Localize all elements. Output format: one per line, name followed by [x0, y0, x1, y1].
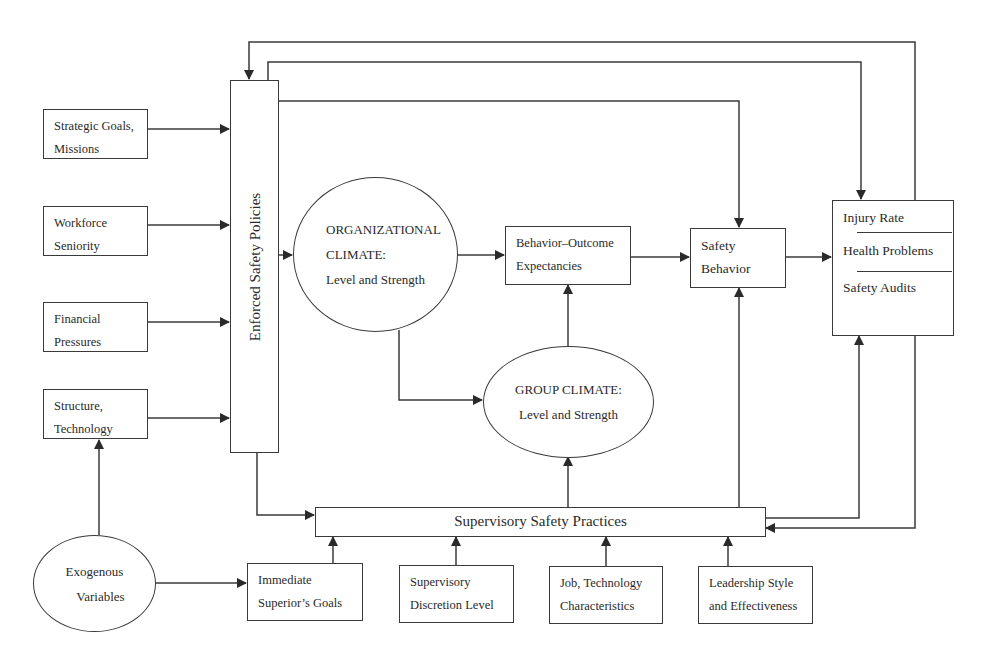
enforced-safety-policies-label: Enforced Safety Policies [246, 192, 263, 340]
exogenous-line2: Variables [64, 584, 124, 609]
supervisory-safety-practices-label: Supervisory Safety Practices [454, 513, 626, 529]
safety-behavior-box: Safety Behavior [690, 228, 786, 288]
supervisory-discretion-line1: Supervisory [410, 571, 513, 594]
strategic-goals-line1: Strategic Goals, [54, 115, 147, 138]
workforce-seniority-line1: Workforce [54, 212, 147, 235]
strategic-goals-box: Strategic Goals, Missions [43, 109, 148, 159]
immediate-superior-line2: Superior’s Goals [258, 592, 362, 615]
supervisory-discretion-box: Supervisory Discretion Level [399, 565, 514, 623]
financial-pressures-line1: Financial [54, 308, 147, 331]
job-technology-box: Job, Technology Characteristics [549, 566, 663, 624]
financial-pressures-line2: Pressures [54, 331, 147, 354]
structure-technology-line1: Structure, [54, 395, 147, 418]
safety-behavior-line2: Behavior [701, 257, 785, 280]
outcomes-divider-1 [857, 232, 952, 233]
safety-behavior-line1: Safety [701, 234, 785, 257]
job-technology-line2: Characteristics [560, 595, 662, 618]
immediate-superior-line1: Immediate [258, 569, 362, 592]
workforce-seniority-box: Workforce Seniority [43, 206, 148, 256]
group-climate-line1: GROUP CLIMATE: [515, 377, 622, 402]
workforce-seniority-line2: Seniority [54, 235, 147, 258]
structure-technology-line2: Technology [54, 418, 147, 441]
exogenous-line1: Exogenous [66, 559, 124, 584]
immediate-superior-goals-box: Immediate Superior’s Goals [247, 563, 363, 621]
supervisory-safety-practices-bar: Supervisory Safety Practices [315, 507, 766, 537]
job-technology-line1: Job, Technology [560, 572, 662, 595]
outcomes-box: Injury Rate Health Problems Safety Audit… [832, 200, 954, 336]
leadership-style-box: Leadership Style and Effectiveness [698, 566, 813, 624]
strategic-goals-line2: Missions [54, 138, 147, 161]
leadership-style-line1: Leadership Style [709, 572, 812, 595]
exogenous-variables-ellipse: Exogenous Variables [33, 535, 156, 632]
group-climate-ellipse: GROUP CLIMATE: Level and Strength [483, 346, 654, 458]
behavior-outcome-line1: Behavior–Outcome [516, 232, 630, 255]
org-climate-line1: ORGANIZATIONAL [326, 217, 457, 242]
structure-technology-box: Structure, Technology [43, 389, 148, 439]
injury-rate-label: Injury Rate [843, 208, 953, 228]
behavior-outcome-box: Behavior–Outcome Expectancies [505, 226, 631, 285]
enforced-safety-policies-box: Enforced Safety Policies [230, 80, 279, 453]
org-climate-line2: CLIMATE: [326, 242, 457, 267]
financial-pressures-box: Financial Pressures [43, 302, 148, 352]
behavior-outcome-line2: Expectancies [516, 255, 630, 278]
leadership-style-line2: and Effectiveness [709, 595, 812, 618]
safety-audits-label: Safety Audits [843, 278, 953, 298]
supervisory-discretion-line2: Discretion Level [410, 594, 513, 617]
outcomes-divider-2 [857, 271, 952, 272]
organizational-climate-ellipse: ORGANIZATIONAL CLIMATE: Level and Streng… [293, 177, 458, 332]
org-climate-line3: Level and Strength [326, 267, 457, 292]
health-problems-label: Health Problems [843, 241, 953, 261]
group-climate-line2: Level and Strength [519, 402, 618, 427]
